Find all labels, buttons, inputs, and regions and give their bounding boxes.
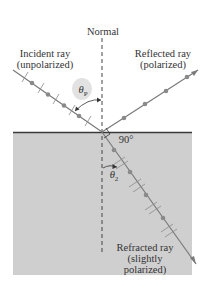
theta-p-label: θP [74, 84, 92, 100]
refracted-ray-label: Refracted ray (slightly polarized) [100, 242, 190, 275]
right-angle-label: 90° [114, 134, 138, 145]
refracted-ray-label-line1: Refracted ray [100, 242, 190, 253]
incident-ray-label: Incident ray (unpolarized) [0, 48, 90, 70]
theta-p-subscript: P [84, 90, 88, 98]
theta-2-label: θ2 [106, 169, 122, 185]
refracted-ray-label-line3: polarized) [100, 264, 190, 275]
reflected-ray [102, 70, 198, 132]
reflected-ray-label-line1: Reflected ray [118, 48, 208, 59]
theta-2-subscript: 2 [115, 175, 119, 183]
reflected-ray-label: Reflected ray (polarized) [118, 48, 208, 70]
normal-label: Normal [80, 26, 126, 37]
reflected-arrowhead [191, 70, 198, 76]
incident-ray [13, 70, 102, 132]
brewster-angle-diagram: Normal Incident ray (unpolarized) Reflec… [0, 0, 210, 288]
reflected-ray-label-line2: (polarized) [118, 59, 208, 70]
refracted-ray-label-line2: (slightly [100, 253, 190, 264]
incident-ray-label-line2: (unpolarized) [0, 59, 90, 70]
incident-ray-label-line1: Incident ray [0, 48, 90, 59]
theta-p-arrowhead [97, 98, 101, 103]
